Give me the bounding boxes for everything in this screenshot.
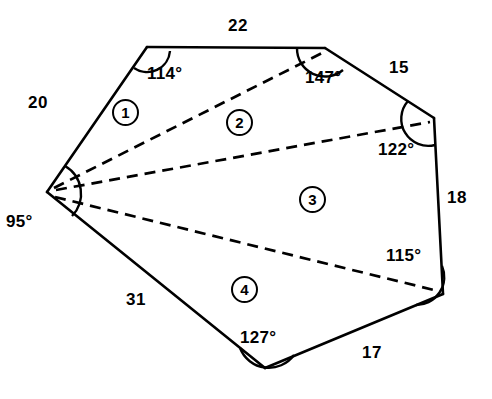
- side-label-DE: 18: [447, 188, 467, 208]
- region-badge-2: 2: [226, 109, 253, 136]
- region-label-2: 2: [235, 114, 243, 131]
- angle-arc-group: [65, 48, 444, 368]
- polygon-outline: [47, 47, 443, 368]
- diagonal-group: [54, 53, 438, 291]
- side-FA: [47, 192, 265, 368]
- diagonal-AC: [54, 53, 322, 188]
- side-label-CD: 15: [389, 58, 409, 78]
- angle-label-A: 95°: [6, 212, 33, 232]
- region-label-4: 4: [240, 281, 248, 298]
- region-badge-4: 4: [231, 276, 258, 303]
- polygon-diagram: 20 22 15 18 17 31 95° 114° 147° 122° 115…: [0, 0, 492, 399]
- angle-label-B: 114°: [147, 64, 182, 84]
- side-label-FA: 31: [126, 290, 146, 310]
- angle-label-E: 115°: [386, 246, 421, 266]
- side-BC: [147, 47, 325, 48]
- region-label-1: 1: [121, 104, 129, 121]
- side-label-AB: 20: [28, 93, 48, 113]
- angle-arc-F: [240, 348, 294, 368]
- side-label-BC: 22: [228, 16, 248, 36]
- region-badge-3: 3: [299, 186, 326, 213]
- region-label-3: 3: [308, 191, 316, 208]
- angle-label-F: 127°: [240, 328, 276, 348]
- angle-label-C: 147°: [305, 68, 341, 88]
- region-badge-1: 1: [112, 99, 139, 126]
- side-label-EF: 17: [362, 343, 382, 363]
- angle-label-D: 122°: [378, 140, 414, 160]
